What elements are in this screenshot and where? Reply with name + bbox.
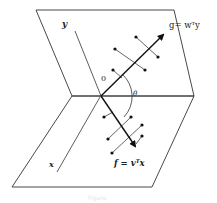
f-direction-arrow: [101, 96, 135, 146]
data-point: [110, 151, 113, 154]
data-point: [140, 134, 143, 137]
data-point: [134, 35, 137, 38]
data-point: [102, 115, 105, 118]
f-projection-label: f = vᵀx: [113, 158, 146, 168]
lower-projections: [102, 112, 143, 155]
g-projection-label: g= wᵀy: [169, 20, 200, 30]
lower-plane-x-space: [12, 96, 194, 187]
theta-label: θ: [133, 90, 138, 98]
data-point: [143, 68, 146, 71]
data-point: [111, 68, 114, 71]
cca-projection-diagram: y x 0 θ g= wᵀy f = vᵀx Figure: [0, 0, 217, 203]
origin-label: 0: [101, 74, 106, 83]
g-direction-arrow: [101, 35, 163, 96]
x-axis-label: x: [48, 159, 54, 169]
data-point: [129, 115, 132, 118]
y-axis-label: y: [61, 19, 68, 29]
figure-caption: Figure: [88, 194, 107, 202]
data-point: [140, 123, 143, 126]
angle-theta-arc: [122, 74, 132, 117]
upper-projections: [111, 35, 159, 78]
data-point: [113, 47, 116, 50]
y-axis-line: [75, 31, 101, 96]
data-point: [106, 137, 109, 140]
data-point: [156, 55, 159, 58]
